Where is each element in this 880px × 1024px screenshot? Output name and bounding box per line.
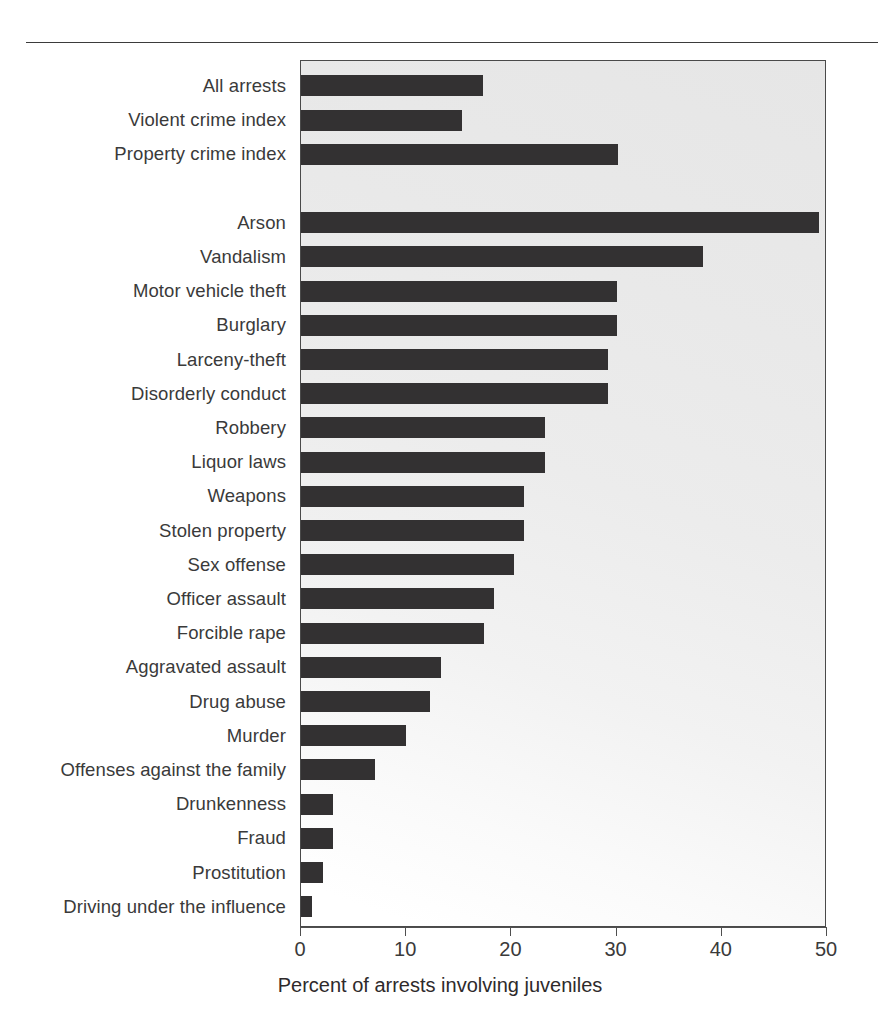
x-tick-label: 10 (394, 939, 416, 959)
bar (301, 212, 819, 233)
x-tick-label: 50 (815, 939, 837, 959)
bar-category-label: Stolen property (159, 522, 286, 541)
bar (301, 657, 441, 678)
bar-rows-container: All arrestsViolent crime indexProperty c… (0, 60, 880, 927)
bar (301, 623, 484, 644)
bar-category-label: Murder (227, 727, 286, 746)
x-tick-label: 0 (294, 939, 305, 959)
bar-row: Sex offense (0, 548, 880, 582)
bar (301, 554, 514, 575)
x-tick-label: 20 (499, 939, 521, 959)
bar (301, 725, 406, 746)
bar-row: Officer assault (0, 582, 880, 616)
x-tick-mark (300, 927, 301, 936)
bar-category-label: Sex offense (188, 556, 286, 575)
bar-category-label: All arrests (203, 77, 286, 96)
bar-row: Arson (0, 206, 880, 240)
bar-category-label: Motor vehicle theft (133, 282, 286, 301)
bar-row: Disorderly conduct (0, 377, 880, 411)
bar-row: Violent crime index (0, 103, 880, 137)
bar-category-label: Robbery (215, 419, 286, 438)
bar-row: Drug abuse (0, 685, 880, 719)
bar (301, 315, 617, 336)
x-tick-mark (510, 927, 511, 936)
bar-category-label: Weapons (207, 487, 286, 506)
bar-category-label: Disorderly conduct (131, 385, 286, 404)
bar (301, 520, 524, 541)
bar (301, 144, 618, 165)
bar (301, 896, 312, 917)
bar-category-label: Arson (237, 214, 286, 233)
bar-category-label: Property crime index (114, 145, 286, 164)
bar-category-label: Burglary (216, 316, 286, 335)
bar (301, 383, 608, 404)
bar-row: Driving under the influence (0, 890, 880, 924)
bar-category-label: Drug abuse (189, 693, 286, 712)
bar (301, 486, 524, 507)
bar-row: Larceny-theft (0, 343, 880, 377)
bar-category-label: Prostitution (192, 864, 286, 883)
figure-page: All arrestsViolent crime indexProperty c… (0, 0, 880, 1024)
bar-category-label: Liquor laws (191, 453, 286, 472)
bar-row: Forcible rape (0, 616, 880, 650)
x-tick-mark (721, 927, 722, 936)
bar-row: Weapons (0, 479, 880, 513)
bar-row: All arrests (0, 69, 880, 103)
bar-row: Aggravated assault (0, 650, 880, 684)
bar-row: Murder (0, 719, 880, 753)
bar-category-label: Vandalism (200, 248, 286, 267)
x-tick-mark (826, 927, 827, 936)
bar-category-label: Larceny-theft (177, 351, 286, 370)
bar-row: Fraud (0, 821, 880, 855)
bar-category-label: Offenses against the family (60, 761, 286, 780)
bar (301, 349, 608, 370)
x-axis-line (300, 927, 827, 929)
bar-row: Motor vehicle theft (0, 274, 880, 308)
x-tick-label: 40 (710, 939, 732, 959)
bar-row: Offenses against the family (0, 753, 880, 787)
bar (301, 794, 333, 815)
x-tick-label: 30 (604, 939, 626, 959)
bar-row: Property crime index (0, 137, 880, 171)
bar-row: Stolen property (0, 514, 880, 548)
top-divider-rule (26, 42, 878, 43)
bar-category-label: Driving under the influence (63, 898, 286, 917)
bar (301, 246, 703, 267)
bar-row: Robbery (0, 411, 880, 445)
bar (301, 759, 375, 780)
bar-category-label: Fraud (237, 829, 286, 848)
bar (301, 452, 545, 473)
bar-row: Liquor laws (0, 445, 880, 479)
bar-category-label: Forcible rape (177, 624, 286, 643)
bar (301, 862, 323, 883)
bar-category-label: Drunkenness (176, 795, 286, 814)
bar (301, 691, 430, 712)
bar-row-spacer (0, 172, 880, 206)
bar (301, 588, 494, 609)
bar-row: Burglary (0, 308, 880, 342)
bar-category-label: Aggravated assault (126, 658, 286, 677)
bar-category-label: Violent crime index (128, 111, 286, 130)
bar-category-label: Officer assault (167, 590, 286, 609)
bar (301, 110, 462, 131)
bar (301, 75, 483, 96)
bar (301, 281, 617, 302)
bar-row: Prostitution (0, 856, 880, 890)
bar (301, 828, 333, 849)
bar (301, 417, 545, 438)
bar-row: Vandalism (0, 240, 880, 274)
x-tick-mark (405, 927, 406, 936)
x-axis-title: Percent of arrests involving juveniles (0, 975, 880, 995)
bar-row: Drunkenness (0, 787, 880, 821)
x-tick-mark (616, 927, 617, 936)
